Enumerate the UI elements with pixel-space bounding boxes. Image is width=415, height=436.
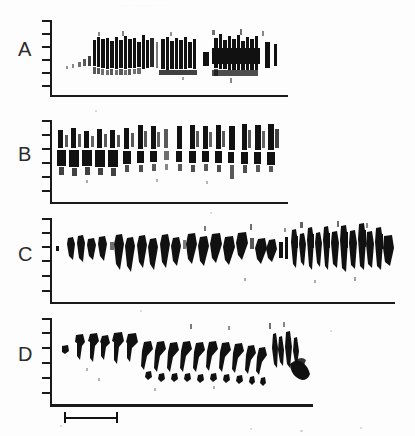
scan-speck	[250, 428, 252, 430]
signal-trace-a	[62, 26, 284, 86]
y-tick-c-6	[42, 290, 51, 292]
y-tick-a-5	[42, 72, 51, 74]
scale-bar-line	[64, 417, 118, 419]
y-tick-a-6	[42, 85, 51, 87]
signal-trace-b	[56, 122, 286, 198]
y-tick-b-1	[42, 120, 51, 122]
x-axis-d	[50, 404, 313, 407]
scan-speck	[60, 425, 62, 427]
ghost-header-text: .... ........ ....	[118, 1, 166, 7]
y-tick-b-5	[42, 176, 51, 178]
y-tick-b-2	[42, 134, 51, 136]
x-axis-a	[50, 95, 288, 97]
scan-speck	[95, 110, 97, 112]
spectrogram-figure: .... ........ .... A	[0, 0, 415, 436]
x-axis-c	[50, 302, 395, 304]
y-tick-d-6	[42, 392, 51, 394]
panel-label-d: D	[18, 343, 32, 366]
y-tick-d-5	[42, 377, 51, 379]
y-tick-c-5	[42, 275, 51, 277]
scale-bar-cap-left	[64, 412, 66, 423]
y-tick-a-2	[42, 33, 51, 35]
scale-bar-cap-right	[116, 412, 118, 423]
y-tick-a-4	[42, 59, 51, 61]
scan-speck	[360, 427, 362, 429]
y-tick-a-1	[42, 20, 51, 22]
y-tick-a-3	[42, 46, 51, 48]
y-tick-d-2	[42, 332, 51, 334]
panel-label-a: A	[18, 38, 31, 61]
y-tick-c-2	[42, 232, 51, 234]
y-tick-c-1	[42, 218, 51, 220]
y-tick-b-3	[42, 148, 51, 150]
y-tick-c-3	[42, 246, 51, 248]
scan-speck	[210, 212, 212, 214]
scan-speck	[140, 310, 142, 312]
x-axis-b	[50, 202, 288, 204]
y-tick-d-1	[42, 318, 51, 320]
scan-speck	[300, 430, 303, 432]
y-tick-b-4	[42, 162, 51, 164]
signal-trace-d	[58, 320, 314, 402]
panel-label-c: C	[18, 243, 32, 266]
panel-label-b: B	[18, 143, 31, 166]
y-tick-b-6	[42, 190, 51, 192]
y-tick-d-3	[42, 347, 51, 349]
signal-trace-c	[54, 220, 394, 298]
y-tick-d-4	[42, 362, 51, 364]
scan-speck	[330, 330, 332, 332]
y-tick-c-4	[42, 260, 51, 262]
